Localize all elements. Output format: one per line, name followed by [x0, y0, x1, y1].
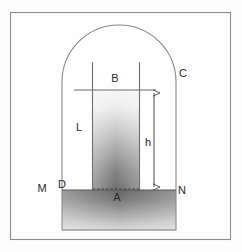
label-C: C [179, 67, 187, 79]
liquid-grain-overlay [93, 90, 140, 190]
label-A: A [113, 191, 121, 203]
label-L: L [76, 121, 82, 133]
label-M: M [37, 182, 46, 194]
capillary-rise-diagram: B C L h M D A N [0, 0, 242, 252]
label-B: B [111, 72, 118, 84]
label-N: N [178, 184, 186, 196]
label-D: D [58, 178, 66, 190]
figure-canvas: B C L h M D A N [0, 0, 242, 252]
label-h: h [145, 136, 151, 148]
